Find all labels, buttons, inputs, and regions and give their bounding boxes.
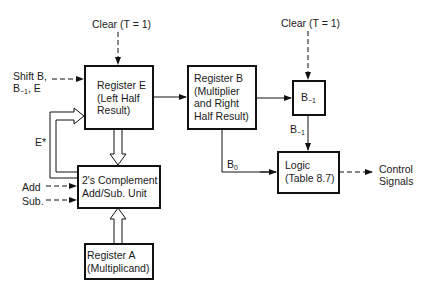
b0-label: B0 [227,158,238,170]
register-b-label: Register B (Multiplier and Right Half Re… [194,72,249,122]
bus-a-to-adder [110,208,126,243]
control-signals-label: Control Signals [379,163,413,187]
diagram-connections [0,0,425,291]
add-label: Add [22,181,41,193]
shift-label: Shift B, B−1, E [13,70,47,94]
sub-label: Sub. [22,195,44,207]
register-e-label: Register E (Left Half Result) [97,79,146,117]
bus-e-to-adder [110,129,126,165]
adder-label: 2's Complement Add/Sub. Unit [82,174,158,199]
clear-left-label: Clear (T = 1) [92,18,151,30]
register-a-label: Register A (Multiplicand) [87,249,149,274]
e-star-label: E* [35,136,46,148]
b-minus-1-label: B−1 [301,91,316,104]
b-minus-1-output-label: B−1 [290,123,305,135]
clear-right-label: Clear (T = 1) [281,17,340,29]
logic-label: Logic (Table 8.7) [285,159,335,184]
